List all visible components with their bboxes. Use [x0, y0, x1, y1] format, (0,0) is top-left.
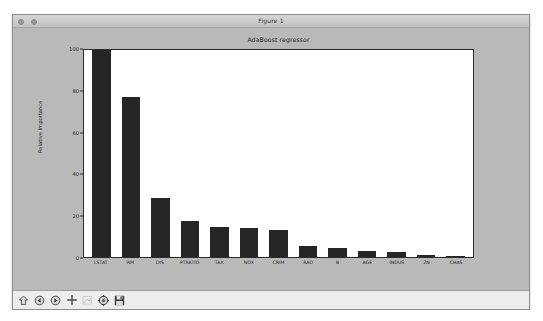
bar-slot: [264, 50, 293, 257]
bar-slot: [411, 50, 440, 257]
y-tick-label: 40: [72, 171, 79, 177]
bar-slot: [234, 50, 263, 257]
bar[interactable]: [240, 228, 259, 257]
x-tick-label: DIS: [145, 260, 175, 274]
x-tick-label: CRIM: [264, 260, 294, 274]
matplotlib-toolbar: [13, 290, 529, 309]
y-axis-label: Relative Importance: [37, 101, 43, 153]
bar[interactable]: [92, 50, 111, 257]
y-tick-label: 60: [72, 130, 79, 136]
x-tick-label: PTRATIO: [175, 260, 205, 274]
y-tick-label: 100: [69, 46, 79, 52]
configure-subplots-icon[interactable]: [96, 293, 111, 308]
bar-slot: [352, 50, 381, 257]
x-tick-label: TAX: [204, 260, 234, 274]
zoom-rect-icon[interactable]: [80, 293, 95, 308]
save-figure-icon[interactable]: [112, 293, 127, 308]
x-tick-label: ZN: [412, 260, 442, 274]
x-tick-label: AGE: [352, 260, 382, 274]
bar[interactable]: [181, 221, 200, 257]
bar-slot: [205, 50, 234, 257]
bar-slot: [323, 50, 352, 257]
bar-slot: [87, 50, 116, 257]
plot-area[interactable]: [83, 49, 474, 258]
pan-move-icon[interactable]: [64, 293, 79, 308]
bar[interactable]: [210, 227, 229, 257]
bar[interactable]: [328, 248, 347, 257]
bar-slot: [382, 50, 411, 257]
x-tick-label: B: [323, 260, 353, 274]
bar[interactable]: [358, 251, 377, 257]
figure-canvas: AdaBoost regressor 020406080100 Relative…: [13, 28, 529, 292]
y-tick-label: 20: [72, 213, 79, 219]
y-axis: 020406080100: [59, 49, 83, 258]
bar[interactable]: [269, 230, 288, 257]
chart-title: AdaBoost regressor: [83, 36, 474, 43]
bar[interactable]: [417, 255, 436, 257]
bar-slot: [175, 50, 204, 257]
bar-slot: [116, 50, 145, 257]
bar-slot: [441, 50, 470, 257]
desktop-background: [0, 310, 543, 321]
bar[interactable]: [387, 252, 406, 257]
forward-arrow-icon[interactable]: [48, 293, 63, 308]
x-tick-label: CHAS: [441, 260, 471, 274]
bar[interactable]: [122, 97, 141, 257]
x-tick-label: INDUS: [382, 260, 412, 274]
x-axis: LSTATRMDISPTRATIOTAXNOXCRIMRADBAGEINDUSZ…: [83, 260, 474, 274]
bar-slot: [293, 50, 322, 257]
x-tick-label: RM: [116, 260, 146, 274]
home-icon[interactable]: [16, 293, 31, 308]
window-title: Figure 1: [13, 17, 529, 24]
bar-slot: [146, 50, 175, 257]
y-tick-label: 0: [76, 255, 79, 261]
bar[interactable]: [299, 246, 318, 257]
x-tick-label: LSTAT: [86, 260, 116, 274]
bar-series: [84, 50, 473, 257]
y-tick-label: 80: [72, 88, 79, 94]
bar[interactable]: [446, 256, 465, 257]
screen: Figure 1 AdaBoost regressor 020406080100…: [0, 0, 543, 321]
bar[interactable]: [151, 198, 170, 257]
back-arrow-icon[interactable]: [32, 293, 47, 308]
x-tick-label: RAD: [293, 260, 323, 274]
window-titlebar[interactable]: Figure 1: [13, 15, 529, 28]
figure-window: Figure 1 AdaBoost regressor 020406080100…: [12, 14, 530, 310]
x-tick-label: NOX: [234, 260, 264, 274]
